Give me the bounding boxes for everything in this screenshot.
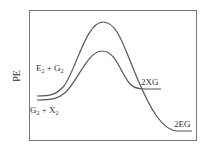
upper-reaction-curve (37, 22, 192, 131)
upper-products-label: 2EG (174, 119, 191, 129)
upper-reactants-label: E2 + G2 (36, 63, 64, 74)
lower-products-label: 2XG (141, 77, 159, 87)
plot-frame (30, 11, 197, 141)
lower-reactants-label: G2 + X2 (30, 105, 59, 116)
pe-diagram: PE E2 + G2 G2 + X2 2XG 2EG (0, 0, 204, 149)
y-axis-label: PE (11, 70, 22, 82)
